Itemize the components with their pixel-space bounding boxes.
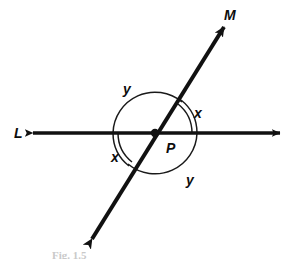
- angle-label-x-lower-left: x: [111, 150, 119, 164]
- angle-label-y-upper-left: y: [123, 82, 131, 96]
- geometry-diagram-canvas: [0, 0, 299, 259]
- intersection-point-marker: [151, 129, 159, 137]
- angle-label-y-lower-right: y: [186, 173, 194, 187]
- line-label-L: L: [14, 126, 23, 140]
- line-label-M: M: [224, 8, 236, 22]
- angle-label-x-upper-right: x: [194, 106, 202, 120]
- figure-caption: Fig. 1.5: [52, 249, 87, 259]
- geometry-figure: L M P y x x y Fig. 1.5: [0, 0, 299, 259]
- point-label-P: P: [166, 141, 175, 155]
